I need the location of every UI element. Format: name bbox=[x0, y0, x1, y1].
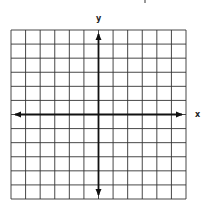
x-axis-label: x bbox=[195, 110, 200, 119]
arrow-up-icon bbox=[96, 33, 102, 40]
y-axis-label: y bbox=[96, 14, 101, 23]
arrow-right-icon bbox=[176, 112, 183, 118]
arrow-left-icon bbox=[14, 112, 21, 118]
arrow-down-icon bbox=[96, 189, 102, 196]
axes bbox=[14, 33, 183, 196]
coordinate-grid bbox=[0, 0, 208, 209]
